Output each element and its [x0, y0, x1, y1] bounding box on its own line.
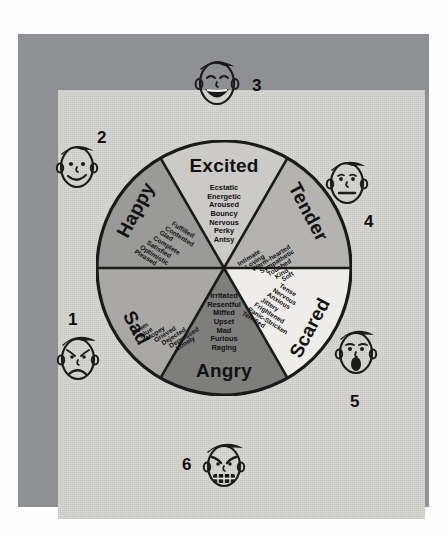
wordlist-excited: EcstaticEnergeticArousedBouncyNervousPer…: [207, 184, 241, 245]
word-item: Raging: [207, 344, 241, 353]
word-item: Antsy: [207, 236, 241, 245]
emotion-wheel-screenshot: Excited Tender Scared Angry Sad Happy Ec…: [0, 0, 447, 537]
face-number-5: 5: [350, 392, 359, 412]
face-number-1: 1: [68, 310, 77, 330]
face-3-excited: [191, 53, 247, 113]
face-number-2: 2: [97, 128, 106, 148]
wheel-sectors: [96, 140, 352, 396]
face-number-4: 4: [364, 212, 373, 232]
face-5-scared: [330, 322, 384, 384]
feeling-wheel: Excited Tender Scared Angry Sad Happy Ec…: [96, 140, 352, 396]
sector-label-angry: Angry: [196, 360, 252, 382]
face-1-sad: [52, 328, 106, 390]
face-6-angry: [198, 436, 252, 498]
wheel-svg: [96, 140, 352, 396]
face-number-6: 6: [182, 455, 191, 475]
face-number-3: 3: [252, 76, 261, 96]
face-4-tender: [322, 152, 374, 214]
sector-label-excited: Excited: [190, 155, 259, 177]
wordlist-angry: IrritatedResentfulMiffedUpsetMadFuriousR…: [207, 292, 241, 353]
